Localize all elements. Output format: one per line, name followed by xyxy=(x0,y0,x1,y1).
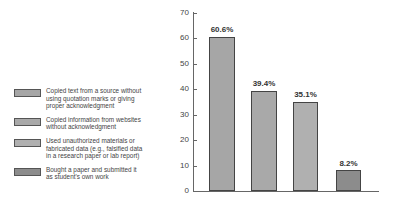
y-tick xyxy=(193,38,197,39)
y-tick xyxy=(193,115,197,116)
bar-value-label: 8.2% xyxy=(329,159,369,168)
bar-copied-text xyxy=(209,37,235,191)
y-tick xyxy=(193,140,197,141)
bar-bought-paper xyxy=(336,170,361,191)
y-tick-label: 60 xyxy=(175,33,189,42)
y-tick xyxy=(193,89,197,90)
y-tick xyxy=(193,13,197,14)
bar-value-label: 35.1% xyxy=(286,90,326,99)
bar-unauthorized-materials xyxy=(293,102,318,191)
x-axis xyxy=(193,191,379,192)
y-tick xyxy=(193,191,197,192)
bar-chart: 0 10 20 30 40 50 60 70 60.6% 39.4% 35.1%… xyxy=(0,0,412,201)
y-tick-label: 20 xyxy=(175,135,189,144)
y-tick-label: 10 xyxy=(175,161,189,170)
y-tick-label: 0 xyxy=(175,186,189,195)
bar-value-label: 60.6% xyxy=(202,25,242,34)
bar-copied-websites xyxy=(251,91,277,191)
y-tick-label: 40 xyxy=(175,84,189,93)
y-tick-label: 70 xyxy=(175,8,189,17)
bar-value-label: 39.4% xyxy=(244,79,284,88)
y-tick xyxy=(193,166,197,167)
y-tick-label: 50 xyxy=(175,59,189,68)
y-tick-label: 30 xyxy=(175,110,189,119)
y-tick xyxy=(193,64,197,65)
